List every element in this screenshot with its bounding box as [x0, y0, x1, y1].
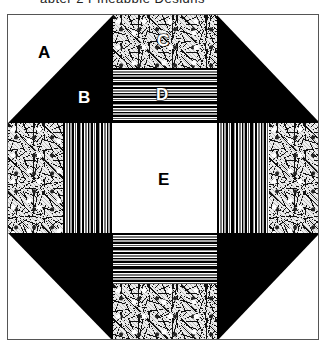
floral-patch-left — [8, 123, 63, 233]
label-b: B — [78, 89, 90, 106]
quilt-block: A B C D E — [7, 14, 319, 340]
label-a: A — [38, 44, 50, 61]
corner-triangle-bottom-right — [217, 233, 319, 340]
floral-patch-right — [269, 123, 319, 233]
stripe-patch-left — [63, 123, 113, 233]
corner-triangle-top-right — [217, 15, 319, 123]
label-c: C — [157, 32, 169, 49]
stripe-patch-right — [217, 123, 269, 233]
caption-remnant: apter 2 Pineapple Designs — [40, 0, 280, 3]
label-e: E — [158, 171, 169, 188]
corner-triangle-bottom-left — [8, 233, 113, 340]
floral-patch-bottom — [113, 284, 217, 340]
corner-triangle-top-left — [8, 15, 113, 123]
stripe-patch-bottom — [113, 233, 217, 284]
label-d: D — [156, 86, 168, 103]
